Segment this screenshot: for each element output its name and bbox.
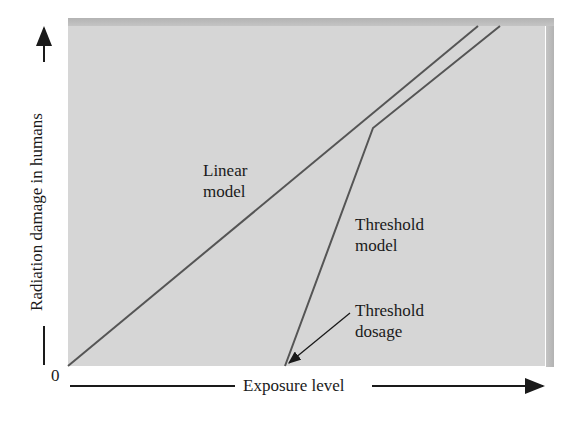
- threshold-dosage-arrow: [289, 313, 350, 363]
- chart-svg: [0, 0, 575, 423]
- x-axis-label: Exposure level: [243, 376, 345, 396]
- origin-label: 0: [51, 366, 60, 386]
- linear-model-label-line2: model: [203, 182, 246, 202]
- threshold-model-label-line2: model: [355, 236, 398, 256]
- linear-model-label-line1: Linear: [203, 161, 247, 181]
- y-axis-label: Radiation damage in humans: [27, 113, 47, 311]
- threshold-dosage-label-line2: dosage: [355, 322, 402, 342]
- threshold-dosage-label-line1: Threshold: [355, 301, 424, 321]
- threshold-model-label-line1: Threshold: [355, 215, 424, 235]
